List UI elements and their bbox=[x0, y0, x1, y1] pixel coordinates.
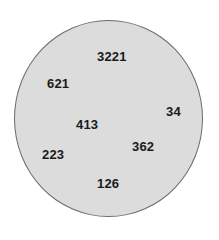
number-label-3221: 3221 bbox=[97, 50, 127, 63]
number-label-223: 223 bbox=[42, 148, 64, 161]
number-label-621: 621 bbox=[47, 77, 69, 90]
number-label-126: 126 bbox=[97, 177, 119, 190]
number-label-362: 362 bbox=[132, 140, 154, 153]
number-label-413: 413 bbox=[76, 118, 98, 131]
number-label-34: 34 bbox=[166, 105, 181, 118]
